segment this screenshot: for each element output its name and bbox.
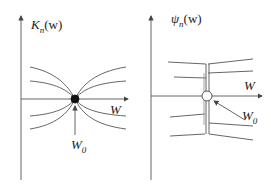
left-point-label: W0 [71, 137, 86, 155]
right-point-label: W0 [242, 108, 257, 126]
right-pointer-arrow [214, 101, 245, 120]
left-equilibrium-point [71, 95, 79, 103]
right-y-axis-label: ψn(w) [171, 11, 202, 29]
right-panel [151, 16, 262, 180]
left-y-axis-label: Kn(w) [31, 17, 62, 35]
right-x-axis-label: W [244, 78, 255, 94]
right-equilibrium-point [202, 91, 212, 101]
left-panel [21, 16, 128, 180]
left-x-axis-label: W [110, 102, 121, 118]
